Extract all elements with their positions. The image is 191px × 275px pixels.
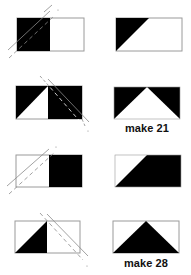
guide-dot — [55, 146, 56, 147]
black-half — [49, 155, 82, 187]
caption-make-21: make 21 — [125, 122, 169, 134]
step-1-before — [8, 5, 84, 58]
quilt-diagram — [0, 0, 191, 275]
step-2-before — [16, 76, 89, 132]
step-3-after — [115, 155, 181, 187]
sewing-line-extension — [44, 5, 52, 12]
step-4-before — [15, 213, 88, 267]
black-square — [48, 86, 82, 119]
guide-dot — [57, 9, 58, 10]
step-3-before — [7, 146, 82, 194]
guide-dot — [86, 265, 87, 266]
step-2-after — [114, 87, 180, 119]
caption-make-28: make 28 — [124, 257, 168, 269]
sewing-line-dashed-top — [40, 76, 49, 86]
guide-dot — [87, 130, 88, 131]
step-1-after — [116, 18, 182, 51]
step-4-after — [113, 221, 179, 253]
